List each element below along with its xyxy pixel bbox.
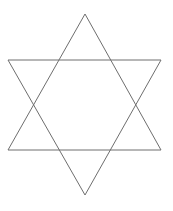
downward-triangle [8, 60, 161, 195]
hexagram-diagram [0, 0, 173, 211]
upward-triangle [8, 14, 161, 150]
